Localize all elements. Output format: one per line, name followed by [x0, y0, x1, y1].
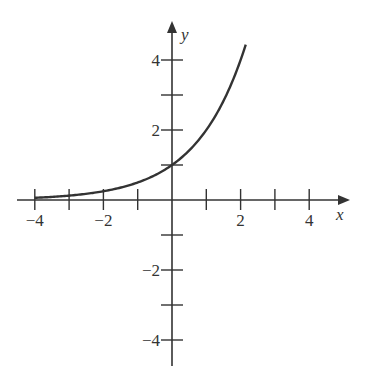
x-tick-label: 2 [236, 211, 245, 230]
exponential-curve [35, 45, 246, 198]
y-axis-label: y [179, 25, 189, 44]
x-axis-label: x [335, 205, 344, 224]
y-tick-label: −2 [142, 261, 160, 280]
exponential-graph: −4−22442−2−4 x y [0, 0, 365, 386]
y-tick-label: 2 [152, 121, 161, 140]
x-tick-label: −4 [26, 211, 45, 230]
x-tick-label: −2 [94, 211, 112, 230]
y-axis-arrow-icon [167, 21, 177, 33]
x-axis-arrow-icon [338, 195, 350, 205]
y-tick-label: −4 [142, 331, 161, 350]
x-tick-label: 4 [305, 211, 314, 230]
axes [17, 21, 350, 366]
y-tick-label: 4 [152, 51, 161, 70]
